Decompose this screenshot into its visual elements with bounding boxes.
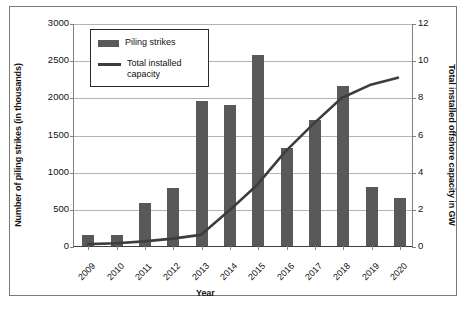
y-axis-right-tick-mark [412,173,416,174]
x-axis-tick-mark [230,246,231,250]
y-axis-right-tick-label: 2 [418,203,423,214]
y-axis-left-tick-mark [70,61,74,62]
bar [111,235,123,246]
x-axis-tick-mark [258,246,259,250]
y-axis-right-tick-mark [412,98,416,99]
bar [394,198,406,246]
x-axis-tick-mark [117,246,118,250]
y-axis-right-tick-mark [412,210,416,211]
bar [337,86,349,246]
y-axis-right-tick-label: 6 [418,129,423,140]
y-axis-left-tick-label: 2000 [48,91,69,102]
bar [167,188,179,246]
bar-swatch-icon [98,40,119,47]
y-axis-right-tick-label: 4 [418,166,423,177]
y-axis-left-tick-mark [70,210,74,211]
x-axis-tick-mark [315,246,316,250]
legend: Piling strikes Total installed capacity [90,29,209,87]
y-axis-left-tick-mark [70,173,74,174]
gridline [74,173,412,174]
y-axis-right-tick-mark [412,24,416,25]
y-axis-left-tick-label: 0 [64,240,69,251]
y-axis-right-tick-mark [412,136,416,137]
y-axis-left-tick-label: 2500 [48,54,69,65]
capacity-line [88,78,398,245]
x-axis-tick-mark [372,246,373,250]
gridline [74,98,412,99]
legend-label: Piling strikes [125,37,176,48]
gridline [74,210,412,211]
gridline [74,136,412,137]
x-axis-tick-mark [173,246,174,250]
x-axis-tick-mark [145,246,146,250]
y-axis-right-tick-label: 8 [418,91,423,102]
y-axis-left-tick-label: 3000 [48,17,69,28]
y-axis-left-tick-label: 1500 [48,129,69,140]
x-axis-tick-mark [343,246,344,250]
y-axis-left-tick-label: 1000 [48,166,69,177]
y-axis-left-tick-mark [70,136,74,137]
y-axis-left-tick-mark [70,98,74,99]
chart-figure: Number of piling strikes (in thousands) … [0,0,467,310]
bar [281,148,293,247]
y-axis-right-tick-mark [412,61,416,62]
gridline [74,24,412,25]
legend-label: Total installed capacity [127,58,205,80]
y-axis-left-title: Number of piling strikes (in thousands) [13,45,23,245]
legend-item-total-installed-capacity: Total installed capacity [98,58,205,80]
x-axis-tick-mark [400,246,401,250]
y-axis-right-tick-label: 12 [418,17,429,28]
y-axis-right-tick-label: 0 [418,240,423,251]
x-axis-tick-mark [88,246,89,250]
x-axis-tick-mark [202,246,203,250]
y-axis-right-tick-mark [412,247,416,248]
bar [82,235,94,247]
bar [196,101,208,246]
plot-area: 050010001500200025003000 024681012 20092… [73,24,413,247]
y-axis-right-tick-label: 10 [418,54,429,65]
bar [366,187,378,246]
bar [309,120,321,246]
y-axis-left-tick-mark [70,247,74,248]
bar [139,203,151,247]
bar [224,105,236,246]
x-axis-tick-mark [287,246,288,250]
y-axis-left-tick-mark [70,24,74,25]
y-axis-right-title: Total installed offshore capacity in GW [447,45,457,245]
x-axis-title: Year [196,288,215,298]
legend-item-piling-strikes: Piling strikes [98,37,176,48]
line-swatch-icon [98,63,121,66]
y-axis-left-tick-label: 500 [53,203,69,214]
bar [252,55,264,246]
